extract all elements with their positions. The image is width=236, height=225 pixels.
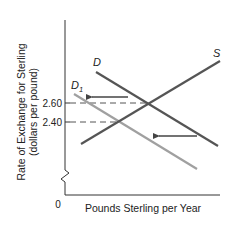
axis-break-icon xyxy=(61,170,69,182)
exchange-rate-chart: 2.60 2.40 0 Pounds Sterling per Year Rat… xyxy=(0,0,236,225)
y-axis-sublabel: (dollars per pound) xyxy=(27,68,39,156)
y-axis-label: Rate of Exchange for Sterling xyxy=(15,43,27,180)
curve-label-s: S xyxy=(213,47,221,59)
curve-label-d: D xyxy=(93,56,101,68)
y-tick-label: 2.40 xyxy=(43,117,63,128)
origin-label: 0 xyxy=(55,199,61,210)
curve-label-d1: D1 xyxy=(71,79,83,94)
y-tick-label: 2.60 xyxy=(43,98,63,109)
y-axis xyxy=(61,20,70,195)
demand-curve-d xyxy=(96,72,218,146)
demand-curve-d1 xyxy=(74,94,197,169)
x-axis-label: Pounds Sterling per Year xyxy=(85,202,202,214)
